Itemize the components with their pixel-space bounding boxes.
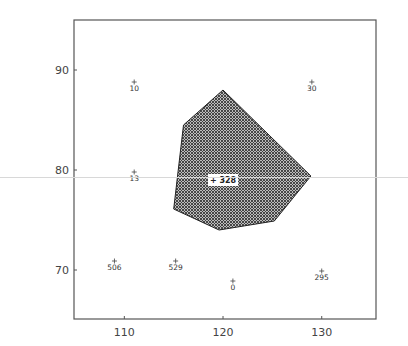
scan-line-artifact: [0, 177, 408, 178]
data-point: 10: [129, 80, 139, 94]
y-tick-label: 90: [55, 64, 69, 77]
point-label: 295: [315, 273, 330, 282]
hatched-region: + 328: [174, 90, 311, 230]
y-tick-label: 80: [55, 164, 69, 177]
x-tick-label: 120: [213, 326, 234, 339]
point-label: 13: [129, 174, 139, 183]
y-tick-label: 70: [55, 264, 69, 277]
data-point: 0: [230, 279, 235, 293]
region-polygon: [174, 90, 311, 230]
point-label: 0: [231, 283, 236, 292]
point-label: 506: [107, 263, 122, 272]
data-point: 529: [168, 259, 183, 273]
data-point: 30: [307, 80, 317, 94]
point-label: 529: [168, 263, 183, 272]
x-tick-label: 110: [114, 326, 135, 339]
scatter-chart: 110120130708090 + 328 1030135065290295: [0, 0, 408, 346]
x-tick-label: 130: [311, 326, 332, 339]
point-label: 30: [307, 84, 317, 93]
point-label: 10: [129, 84, 139, 93]
data-point: 506: [107, 259, 122, 273]
data-point: 295: [315, 269, 330, 283]
